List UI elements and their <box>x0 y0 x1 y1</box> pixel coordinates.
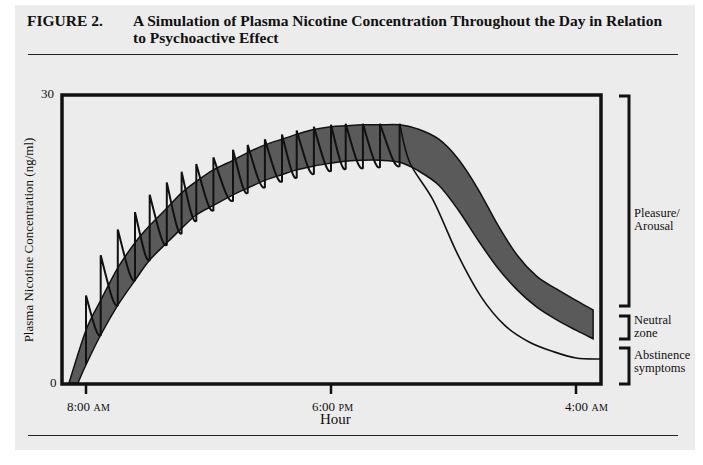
x-axis-label: Hour <box>320 411 351 428</box>
x-tick-8am: 8:00 AM <box>67 399 110 415</box>
neutral-bracket <box>619 316 629 339</box>
zone-label-pleasure: Pleasure/ Arousal <box>634 207 680 233</box>
y-tick-0: 0 <box>50 375 57 391</box>
chart-canvas <box>0 0 703 465</box>
y-axis-label: Plasma Nicotine Concentration (ng/ml) <box>21 138 37 343</box>
bottom-rule <box>28 435 678 436</box>
pleasure-bracket <box>619 96 629 306</box>
zone-brackets <box>619 96 629 384</box>
x-tick-4am: 4:00 AM <box>565 399 608 415</box>
zone-label-neutral: Neutral zone <box>634 314 671 340</box>
y-tick-30: 30 <box>41 86 54 102</box>
zone-label-abstinence: Abstinence symptoms <box>634 349 690 375</box>
abstinence-bracket <box>619 348 629 384</box>
